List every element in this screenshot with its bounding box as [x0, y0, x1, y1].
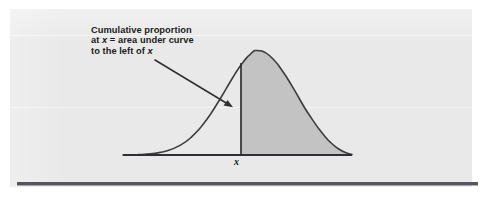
callout-arrow	[155, 60, 233, 107]
page-bottom-rule	[17, 182, 478, 185]
caption-line-1: Cumulative proportion	[91, 25, 226, 35]
caption-line-3: to the left of x	[91, 46, 226, 56]
caption-annotation: Cumulative proportionat x = area under c…	[91, 25, 226, 56]
x-axis-label: x	[234, 156, 239, 167]
normal-distribution-plot	[0, 0, 490, 199]
caption-line-2: at x = area under curve	[91, 35, 226, 45]
normal-curve-figure: Cumulative proportionat x = area under c…	[0, 0, 490, 199]
shaded-area-under-curve	[241, 50, 352, 155]
